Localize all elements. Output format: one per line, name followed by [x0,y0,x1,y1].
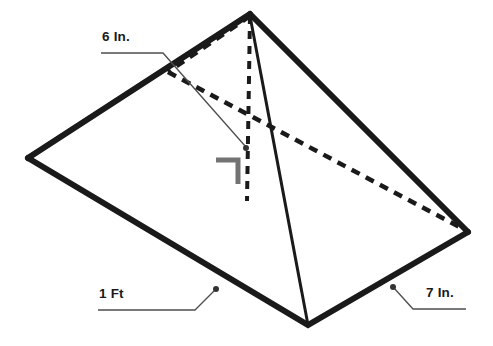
upper-left-edge [28,14,250,158]
altitude-dashed-line [247,16,250,201]
dimension-label-base-width: 7 In. [426,285,454,300]
leader-1ft-endpoint [213,286,219,292]
right-angle-icon [216,160,238,184]
leader-6in-endpoint [243,145,249,151]
pyramid-figure [0,0,493,346]
upper-right-edge [250,14,468,232]
dimension-label-height: 6 In. [102,29,130,44]
dimension-label-base-length: 1 Ft [99,286,124,301]
hidden-edge-back-diagonal [168,72,467,231]
leader-7in-endpoint [390,284,396,290]
pyramid-diagram: 6 In. 1 Ft 7 In. [0,0,493,346]
